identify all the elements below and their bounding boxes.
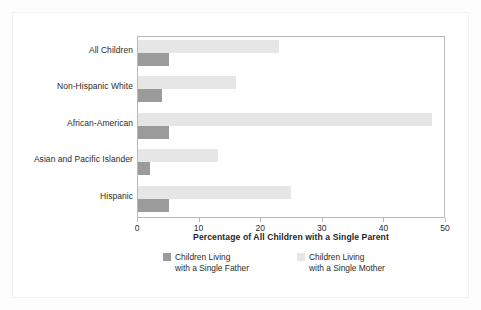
legend-label-mother-line2: with a Single Mother: [309, 263, 385, 273]
y-axis-label-non-hispanic-white: Non-Hispanic White: [1, 81, 133, 91]
legend-label-mother-line1: Children Living: [309, 252, 364, 262]
y-axis-label-african-american: African-American: [1, 118, 133, 128]
bar-group-asian-pacific-islander: [138, 146, 444, 182]
y-axis-label-all-children: All Children: [1, 45, 133, 55]
legend-label-father: Children Living with a Single Father: [175, 252, 249, 273]
bar-non-hispanic-white-father: [138, 89, 162, 102]
x-axis-title: Percentage of All Children with a Single…: [137, 232, 445, 242]
bar-non-hispanic-white-mother: [138, 76, 236, 89]
bar-african-american-mother: [138, 113, 432, 126]
y-axis-label-hispanic: Hispanic: [1, 191, 133, 201]
bar-group-non-hispanic-white: [138, 73, 444, 109]
legend-item-mother: Children Living with a Single Mother: [297, 252, 385, 273]
bar-asian-pacific-islander-father: [138, 162, 150, 175]
chart-figure: All Children Non-Hispanic White African-…: [0, 0, 481, 310]
legend-swatch-mother-icon: [297, 253, 305, 261]
legend-label-mother: Children Living with a Single Mother: [309, 252, 385, 273]
legend-swatch-father-icon: [163, 253, 171, 261]
bar-all-children-mother: [138, 40, 279, 53]
bar-hispanic-mother: [138, 186, 291, 199]
chart-legend: Children Living with a Single Father Chi…: [137, 252, 445, 282]
legend-label-father-line2: with a Single Father: [175, 263, 249, 273]
legend-label-father-line1: Children Living: [175, 252, 230, 262]
bar-asian-pacific-islander-mother: [138, 149, 218, 162]
bar-group-hispanic: [138, 183, 444, 219]
y-axis-label-asian-pacific-islander: Asian and Pacific Islander: [1, 154, 133, 164]
bar-group-all-children: [138, 37, 444, 73]
legend-item-father: Children Living with a Single Father: [163, 252, 249, 273]
plot-area: [137, 36, 445, 218]
bar-group-african-american: [138, 110, 444, 146]
bar-hispanic-father: [138, 199, 169, 212]
bar-all-children-father: [138, 53, 169, 66]
y-axis-labels: All Children Non-Hispanic White African-…: [0, 36, 133, 218]
bar-african-american-father: [138, 126, 169, 139]
